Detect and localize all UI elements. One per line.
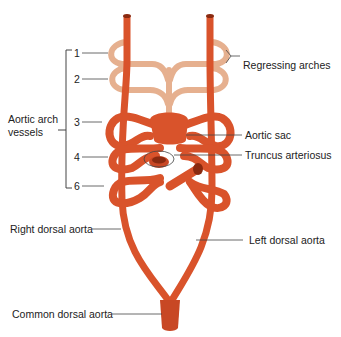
aortic-arch-label-line1: Aortic arch — [8, 113, 58, 125]
left-vessel-opening — [206, 14, 214, 18]
aortic-sac-shape — [150, 113, 188, 145]
label-regressing-arches: Regressing arches — [243, 59, 331, 71]
arch-number-4: 4 — [74, 151, 80, 163]
arch-number-1: 1 — [74, 47, 80, 59]
label-left-dorsal-aorta: Left dorsal aorta — [249, 234, 325, 246]
right-vessel-opening — [123, 14, 131, 18]
aortic-arch-bracket — [58, 50, 72, 188]
arch-number-2: 2 — [74, 73, 80, 85]
aortic-arch-label-line2: vessels — [8, 126, 43, 138]
label-truncus-arteriosus: Truncus arteriosus — [245, 149, 332, 161]
arch-number-3: 3 — [74, 116, 80, 128]
arch-number-6: 6 — [74, 180, 80, 192]
label-common-dorsal-aorta: Common dorsal aorta — [12, 308, 113, 320]
vessel-illustration — [0, 0, 341, 337]
aortic-arch-diagram: 1 2 3 4 6 Aortic arch vessels Regressing… — [0, 0, 341, 337]
label-aortic-sac: Aortic sac — [245, 129, 291, 141]
common-dorsal-aorta-shape — [160, 300, 180, 331]
pulmonary-opening — [193, 163, 203, 175]
label-right-dorsal-aorta: Right dorsal aorta — [10, 223, 93, 235]
